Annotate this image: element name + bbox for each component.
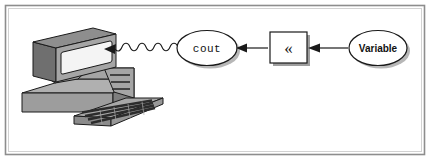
cout-node-label: cout (193, 43, 221, 55)
diagram-canvas: cout « Variable (0, 0, 431, 161)
monitor-left-face (33, 42, 56, 82)
operator-node-label: « (284, 39, 293, 58)
insertion-operator-node[interactable]: « (270, 32, 310, 66)
variable-node-label: Variable (359, 43, 398, 54)
figure-container: cout « Variable (0, 0, 431, 161)
